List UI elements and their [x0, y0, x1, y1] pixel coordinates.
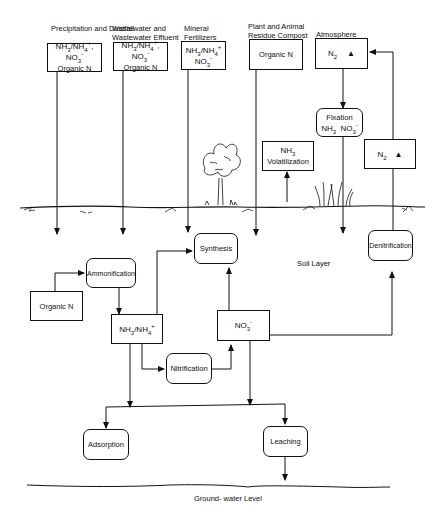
denitrification-box: Denitrification: [368, 230, 413, 261]
fertilizers-box: NH3/NH4+ NO3-: [181, 41, 226, 70]
ammonification-box: Ammonification: [86, 258, 136, 288]
precipitation-box: NH3/NH4+, NO3- Organic N: [47, 43, 102, 72]
groundwater-line: [27, 485, 390, 488]
organic-n-box: Organic N: [30, 291, 83, 321]
groundwater-label: Ground- water Level: [194, 494, 262, 503]
nitrification-box: Nitrification: [166, 353, 212, 384]
wastewater-box: NH3/NH4+, NO3- Organic N: [113, 42, 168, 71]
volatilization-box: NH3 Volatilization: [262, 141, 314, 171]
leaching-box: Leaching: [263, 426, 308, 457]
fertilizers-label: Mineral Fertilizers: [184, 24, 229, 42]
soil-surface-line: [20, 206, 425, 208]
grass-icon: [315, 182, 353, 206]
compost-box: Organic N: [249, 39, 303, 70]
ammonium-box: NH3/NH4+: [111, 314, 163, 344]
synthesis-box: Synthesis: [194, 233, 238, 264]
nitrate-box: NO3-: [217, 310, 270, 341]
up-arrow-icon: ▲: [347, 48, 355, 59]
fixation-box: Fixation NH3 NO3-: [316, 108, 363, 137]
compost-label: Plant and Animal Residue Compost: [248, 22, 308, 40]
tree-icon: [203, 144, 240, 205]
soil-layer-label: Soil Layer: [297, 259, 330, 268]
atmosphere-box: N2 ▲: [315, 38, 368, 69]
adsorption-box: Adsorption: [83, 429, 129, 460]
n2-release-box: N2 ▲: [364, 139, 416, 169]
up-arrow-icon: ▲: [395, 149, 403, 160]
